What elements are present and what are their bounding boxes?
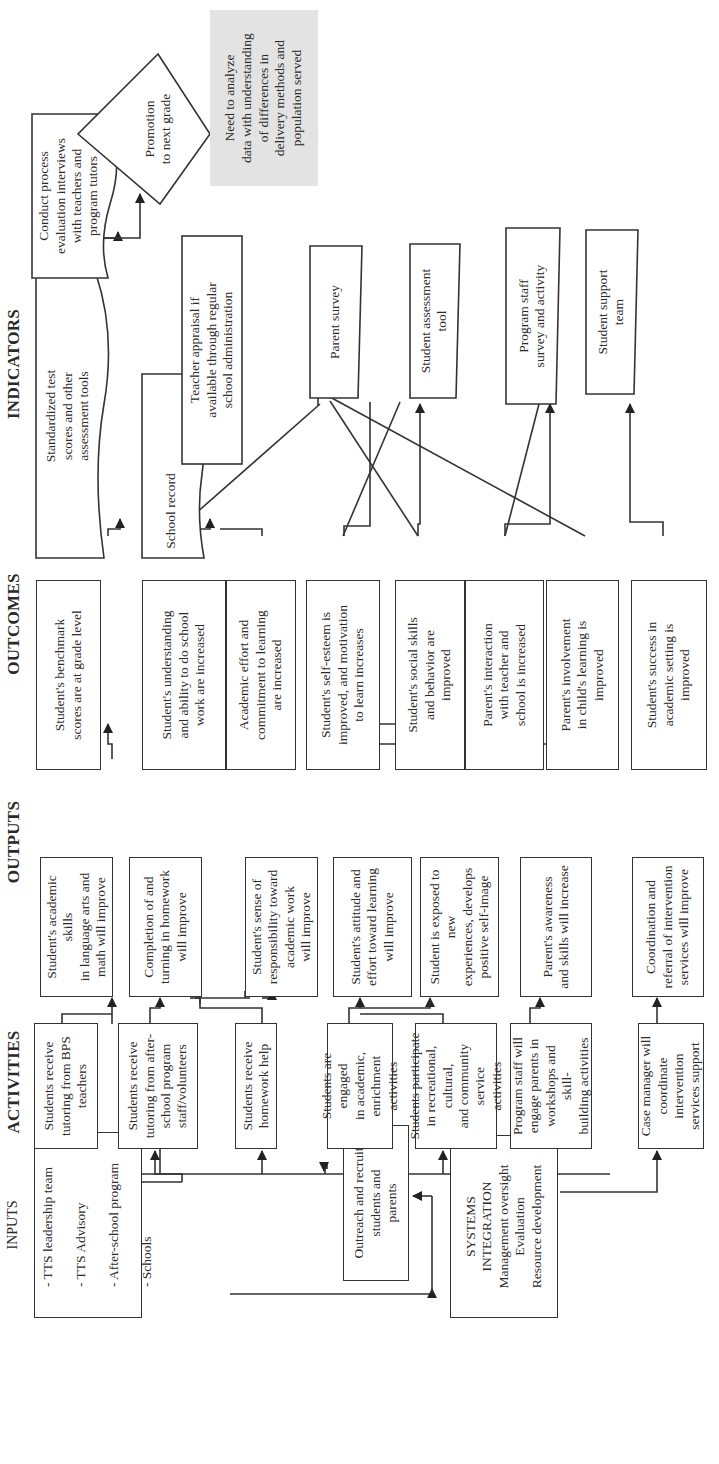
indicator-shapes [0,0,719,1464]
analysis-note: Need to analyze data with understanding … [210,10,318,186]
indicator-student-support-team: Student support team [586,230,636,394]
indicator-teacher-appraisal: Teacher appraisal if available through r… [182,236,242,464]
indicator-promotion: Promotion to next grade [118,64,198,194]
indicator-school-record: School record [142,464,200,558]
indicator-student-assessment: Student assessment tool [410,244,458,398]
indicator-parent-survey: Parent survey [310,246,360,398]
indicator-standardized-tests: Standardized test scores and other asses… [36,274,100,558]
indicator-program-staff-survey: Program staff survey and activity [506,228,558,404]
indicator-process-interviews: Conduct process evaluation interviews wi… [32,114,106,278]
logic-model-diagram: ACTIVITIES OUTPUTS OUTCOMES INDICATORS I… [0,0,719,1464]
